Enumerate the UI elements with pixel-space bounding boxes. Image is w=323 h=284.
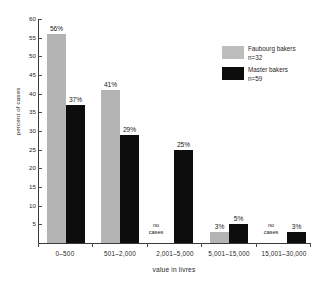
y-tick-label-15: 15 <box>0 184 36 190</box>
y-tick-label-35: 35 <box>0 109 36 115</box>
y-tick-label-50: 50 <box>0 53 36 59</box>
y-tick-label-10: 10 <box>0 203 36 209</box>
bar-faubourg-5001-15000 <box>210 232 229 243</box>
y-tick-40 <box>38 94 42 95</box>
x-axis-title: value in livres <box>38 266 310 273</box>
bar-master-2001-5000 <box>174 150 193 243</box>
y-tick-label-40: 40 <box>0 91 36 97</box>
legend-label-faubourg: Faubourg bakers n=32 <box>248 45 296 62</box>
bar-value-master-2001-5000: 25% <box>169 141 198 148</box>
y-tick-label-55: 55 <box>0 35 36 41</box>
bar-value-faubourg-501-2000: 41% <box>96 81 125 88</box>
no-cases-line-1: no <box>268 222 274 228</box>
bar-value-master-0-500: 37% <box>61 96 90 103</box>
bar-value-master-15001-30000: 3% <box>282 223 311 230</box>
y-tick-label-45: 45 <box>0 72 36 78</box>
legend-swatch-faubourg <box>222 46 244 59</box>
y-tick-60 <box>38 19 42 20</box>
x-tick-1 <box>92 243 93 247</box>
y-tick-45 <box>38 75 42 76</box>
bar-faubourg-501-2000 <box>101 90 120 243</box>
x-axis-line <box>38 243 310 244</box>
no-cases-line-1: no <box>153 222 159 228</box>
y-tick-20 <box>38 168 42 169</box>
bar-value-master-5001-15000: 5% <box>224 215 253 222</box>
bar-master-501-2000 <box>120 135 139 243</box>
bar-value-faubourg-0-500: 56% <box>42 25 71 32</box>
y-tick-15 <box>38 187 42 188</box>
y-tick-10 <box>38 206 42 207</box>
x-tick-start <box>38 243 39 247</box>
x-tick-4 <box>256 243 257 247</box>
bar-master-15001-30000 <box>287 232 306 243</box>
legend-swatch-master <box>222 67 244 80</box>
y-tick-30 <box>38 131 42 132</box>
x-category-label-1: 501–2,000 <box>89 250 151 257</box>
y-tick-label-30: 30 <box>0 128 36 134</box>
y-tick-label-25: 25 <box>0 147 36 153</box>
no-cases-line-2: cases <box>264 229 279 235</box>
x-tick-end <box>310 243 311 247</box>
x-category-label-0: 0–500 <box>35 250 95 257</box>
legend-series-name: Master bakers <box>248 66 288 73</box>
y-tick-25 <box>38 150 42 151</box>
y-tick-35 <box>38 112 42 113</box>
legend-series-name: Faubourg bakers <box>248 45 296 52</box>
no-cases-line-2: cases <box>149 229 164 235</box>
x-tick-2 <box>147 243 148 247</box>
y-tick-label-60: 60 <box>0 16 36 22</box>
bar-chart: percent of cases 60 55 50 45 40 35 30 25… <box>0 0 323 284</box>
bar-value-master-501-2000: 29% <box>115 126 144 133</box>
y-tick-50 <box>38 56 42 57</box>
y-tick-55 <box>38 38 42 39</box>
bar-faubourg-0-500 <box>47 34 66 243</box>
legend-label-master: Master bakers n=59 <box>248 66 288 83</box>
x-category-label-4: 15,001–30,000 <box>249 250 319 257</box>
y-tick-label-20: 20 <box>0 165 36 171</box>
y-tick-5 <box>38 224 42 225</box>
legend-series-count: n=32 <box>248 54 296 63</box>
bar-master-0-500 <box>66 105 85 243</box>
legend-series-count: n=59 <box>248 75 288 84</box>
x-tick-3 <box>201 243 202 247</box>
y-tick-label-5: 5 <box>0 221 36 227</box>
bar-master-5001-15000 <box>229 224 248 243</box>
no-cases-faubourg-2001-5000: no cases <box>141 222 171 236</box>
